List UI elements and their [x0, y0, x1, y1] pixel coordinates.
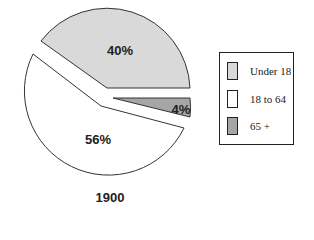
legend-swatch-under-18 — [227, 62, 238, 80]
legend-label: 65 + — [250, 120, 270, 132]
chart-title: 1900 — [96, 190, 125, 205]
legend-label: Under 18 — [250, 65, 291, 77]
legend: Under 18 18 to 64 65 + — [219, 52, 294, 145]
label-under-18: 40% — [107, 43, 133, 58]
legend-item-65-plus: 65 + — [227, 116, 270, 136]
legend-swatch-18-to-64 — [227, 90, 238, 108]
label-65-plus: 4% — [172, 102, 191, 117]
legend-swatch-65-plus — [227, 117, 238, 135]
label-18-to-64: 56% — [85, 132, 111, 147]
legend-item-under-18: Under 18 — [227, 61, 291, 81]
legend-item-18-to-64: 18 to 64 — [227, 89, 286, 109]
legend-label: 18 to 64 — [250, 93, 286, 105]
